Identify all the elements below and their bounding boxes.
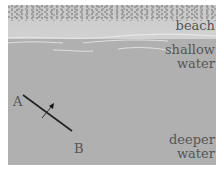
point-a-label: A [13,95,22,109]
segment-ab [23,95,72,131]
wave-line-shoreline [8,34,216,39]
wave-line-3 [53,50,93,51]
point-b-label: B [74,142,84,156]
label-shallow-water: shallow water [165,43,215,71]
label-beach: beach [176,19,215,33]
label-shallow-line1: shallow [165,43,215,57]
label-deeper-line2: water [169,147,215,161]
label-deeper-line1: deeper [169,133,215,147]
wave-line-1 [8,42,63,43]
label-shallow-line2: water [165,57,215,71]
label-deeper-water: deeper water [169,133,215,161]
wave-line-2 [83,40,168,43]
wavefront-arrow-shaft [42,106,52,118]
